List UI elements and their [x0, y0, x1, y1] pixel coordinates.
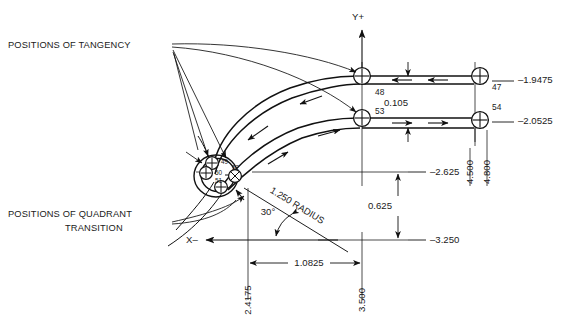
engineering-drawing: Y+ X–: [0, 0, 576, 333]
dimension-label-0105: 0.105: [384, 97, 408, 108]
bubble-label-50: 50: [215, 169, 223, 176]
bubble-label-47: 47: [492, 82, 502, 92]
bubble-label-52: 52: [232, 164, 240, 171]
bubble-label-54: 54: [492, 102, 502, 112]
dimension-label-24175: 2.4175: [242, 285, 253, 314]
bubble-53: [354, 110, 371, 127]
bubble-52: [229, 170, 242, 183]
angle-arc: [276, 214, 292, 236]
quadrant-leader-lines: [172, 196, 244, 224]
bubble-label-49: 49: [221, 158, 229, 165]
dimension-label-4500: 4.500: [464, 160, 475, 184]
callout-quadrant-line1: POSITIONS OF QUADRANT: [8, 209, 132, 219]
tangency-leader-short: [186, 152, 202, 163]
dimension-label-0625: 0.625: [368, 200, 392, 211]
bubble-47: [472, 68, 489, 85]
dimension-label-2625: –2.625: [430, 166, 459, 177]
bubble-54: [472, 112, 489, 129]
axis-label-y: Y+: [352, 11, 364, 22]
flow-arrows: [236, 96, 340, 200]
dimension-label-4800: 4.800: [481, 160, 492, 184]
callout-tangency-label: POSITIONS OF TANGENCY: [8, 40, 131, 50]
dimension-label-y54: –2.0525: [518, 115, 553, 126]
horizontal-runs: [362, 76, 474, 128]
bubble-50: [200, 167, 213, 180]
axis-label-x: X–: [186, 234, 198, 245]
dimension-label-3250: –3.250: [430, 234, 459, 245]
radius-note-label: 1.250 RADIUS: [268, 184, 326, 226]
drawing-canvas: Y+ X–: [0, 0, 576, 333]
angle-note-label: 30°: [261, 206, 276, 217]
dimension-label-y47: –1.9475: [518, 74, 553, 85]
bubble-48: [354, 68, 371, 85]
dimension-label-10825: 1.0825: [294, 257, 323, 268]
bubble-label-53: 53: [375, 106, 385, 116]
bubble-label-51: 51: [215, 177, 223, 184]
callout-quadrant-line2: TRANSITION: [65, 223, 123, 233]
dimension-label-3500: 3.500: [356, 288, 367, 312]
